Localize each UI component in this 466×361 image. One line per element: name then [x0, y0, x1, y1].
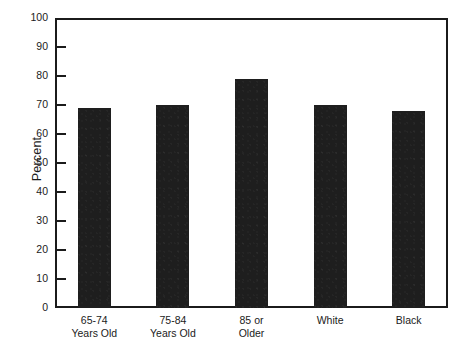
bars-group [57, 20, 446, 308]
bar [314, 105, 347, 308]
y-axis-tick-label: 90 [4, 41, 48, 51]
bar [235, 79, 268, 308]
y-axis-tick-label: 70 [4, 99, 48, 109]
y-axis-tick-label: 80 [4, 70, 48, 80]
x-axis-category-label: Black [363, 314, 455, 327]
bar [78, 108, 111, 308]
y-axis-tick-label: 10 [4, 273, 48, 283]
y-axis-tick-label: 100 [4, 12, 48, 22]
y-axis-tick-labels: 1009080706050403020100 [0, 0, 48, 361]
y-axis-tick-label: 60 [4, 128, 48, 138]
bar [156, 105, 189, 308]
x-axis-category-label-line: Older [206, 327, 298, 340]
y-axis-tick-label: 0 [4, 302, 48, 312]
x-axis-category-label-line: Black [363, 314, 455, 327]
y-axis-tick-label: 30 [4, 215, 48, 225]
bar [392, 111, 425, 308]
y-axis-tick-label: 50 [4, 157, 48, 167]
y-axis-tick-label: 20 [4, 244, 48, 254]
y-axis-tick-label: 40 [4, 186, 48, 196]
bar-chart: Percent 1009080706050403020100 65-74Year… [0, 0, 466, 361]
